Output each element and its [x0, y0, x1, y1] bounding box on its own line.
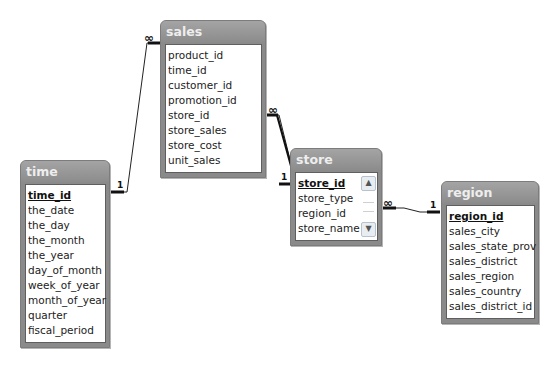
many-label-sales-time: ∞ — [144, 31, 152, 45]
field-the-month[interactable]: the_month — [28, 233, 105, 248]
field-unit-sales[interactable]: unit_sales — [168, 153, 261, 168]
field-the-day[interactable]: the_day — [28, 218, 105, 233]
scrollbar[interactable]: ▲ ▼ — [362, 176, 375, 237]
table-title-time[interactable]: time — [21, 161, 109, 182]
many-label-store-region: ∞ — [383, 196, 391, 210]
field-month-of-year[interactable]: month_of_year — [28, 293, 105, 308]
field-sales-state-prov[interactable]: sales_state_prov — [449, 239, 534, 254]
field-list-region: region_id sales_city sales_state_prov sa… — [446, 205, 535, 319]
many-label-sales-store: ∞ — [268, 103, 276, 117]
field-time-id-pk[interactable]: time_id — [28, 188, 105, 203]
field-region-id-pk[interactable]: region_id — [449, 209, 534, 224]
chevron-up-icon[interactable]: ▲ — [361, 176, 376, 191]
field-the-year[interactable]: the_year — [28, 248, 105, 263]
field-store-id[interactable]: store_id — [168, 108, 261, 123]
field-the-date[interactable]: the_date — [28, 203, 105, 218]
relationship-time-sales — [110, 43, 160, 192]
one-label-time: 1 — [117, 180, 123, 190]
scroll-thumb[interactable] — [363, 202, 374, 212]
table-time[interactable]: time time_id the_date the_day the_month … — [20, 160, 110, 348]
field-product-id[interactable]: product_id — [168, 48, 261, 63]
field-fiscal-period[interactable]: fiscal_period — [28, 323, 105, 338]
field-customer-id[interactable]: customer_id — [168, 78, 261, 93]
table-region[interactable]: region region_id sales_city sales_state_… — [441, 181, 539, 324]
field-day-of-month[interactable]: day_of_month — [28, 263, 105, 278]
field-list-time: time_id the_date the_day the_month the_y… — [25, 184, 106, 343]
field-sales-district-id[interactable]: sales_district_id — [449, 299, 534, 314]
chevron-down-icon[interactable]: ▼ — [361, 222, 376, 237]
field-store-cost[interactable]: store_cost — [168, 138, 261, 153]
field-sales-city[interactable]: sales_city — [449, 224, 534, 239]
table-store[interactable]: store store_id store_type region_id stor… — [290, 148, 382, 246]
field-quarter[interactable]: quarter — [28, 308, 105, 323]
one-label-region: 1 — [430, 200, 436, 210]
field-week-of-year[interactable]: week_of_year — [28, 278, 105, 293]
table-title-region[interactable]: region — [442, 182, 538, 203]
table-title-sales[interactable]: sales — [161, 21, 265, 42]
field-promotion-id[interactable]: promotion_id — [168, 93, 261, 108]
field-store-sales[interactable]: store_sales — [168, 123, 261, 138]
field-sales-region[interactable]: sales_region — [449, 269, 534, 284]
table-title-store[interactable]: store — [291, 149, 381, 170]
field-sales-district[interactable]: sales_district — [449, 254, 534, 269]
field-list-sales: product_id time_id customer_id promotion… — [165, 44, 262, 173]
field-list-store: store_id store_type region_id store_name… — [295, 172, 378, 241]
one-label-store: 1 — [281, 172, 287, 182]
field-time-id[interactable]: time_id — [168, 63, 261, 78]
table-sales[interactable]: sales product_id time_id customer_id pro… — [160, 20, 266, 178]
field-sales-country[interactable]: sales_country — [449, 284, 534, 299]
